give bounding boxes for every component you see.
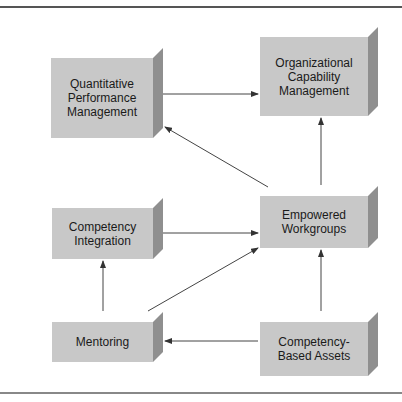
edge-ew-to-qpm bbox=[165, 127, 268, 187]
node-label-cba: Competency- Based Assets bbox=[260, 322, 368, 376]
node-label-ew: Empowered Workgroups bbox=[260, 196, 368, 248]
node-label-qpm: Quantitative Performance Management bbox=[51, 58, 153, 138]
node-label-ci: Competency Integration bbox=[52, 208, 153, 259]
node-label-mentoring: Mentoring bbox=[52, 322, 153, 362]
node-label-ocm: Organizational Capability Management bbox=[260, 37, 368, 116]
edge-mentoring-to-ew bbox=[148, 248, 258, 311]
